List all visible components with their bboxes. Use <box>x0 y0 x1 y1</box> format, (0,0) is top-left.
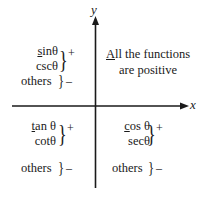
others-label: others <box>21 161 52 176</box>
tan-label: tan θ <box>22 119 56 134</box>
sin-label: sinθ <box>24 44 58 59</box>
positive-sign: + <box>68 46 75 61</box>
quadrant-1-note: All the functions are positive <box>98 46 198 78</box>
quadrant-1-line-2: are positive <box>98 62 198 78</box>
brace-icon: } <box>148 161 154 177</box>
others-label: others <box>21 74 52 89</box>
brace-icon: } <box>58 161 64 177</box>
x-axis-label: x <box>190 97 196 113</box>
brace-icon: } <box>58 121 67 147</box>
quadrant-1-line-1: All the functions <box>98 46 198 62</box>
negative-sign: – <box>156 161 162 176</box>
negative-sign: – <box>66 161 72 176</box>
csc-label: cscθ <box>24 59 58 74</box>
quadrant-3-group: tan θ cotθ <box>22 119 56 149</box>
positive-sign: + <box>67 121 74 136</box>
x-axis-arrow-icon <box>180 103 189 110</box>
cos-label: cos θ <box>114 119 150 134</box>
cot-label: cotθ <box>22 134 56 149</box>
brace-icon: } <box>59 47 68 73</box>
y-axis-label: y <box>91 2 97 18</box>
sec-label: secθ <box>114 134 150 149</box>
negative-sign: – <box>66 74 72 89</box>
brace-icon: } <box>147 121 156 147</box>
quadrant-2-group: sinθ cscθ <box>24 44 58 74</box>
brace-icon: } <box>58 74 64 90</box>
positive-sign: + <box>156 121 163 136</box>
others-label: others <box>112 161 143 176</box>
quadrant-4-group: cos θ secθ <box>114 119 150 149</box>
